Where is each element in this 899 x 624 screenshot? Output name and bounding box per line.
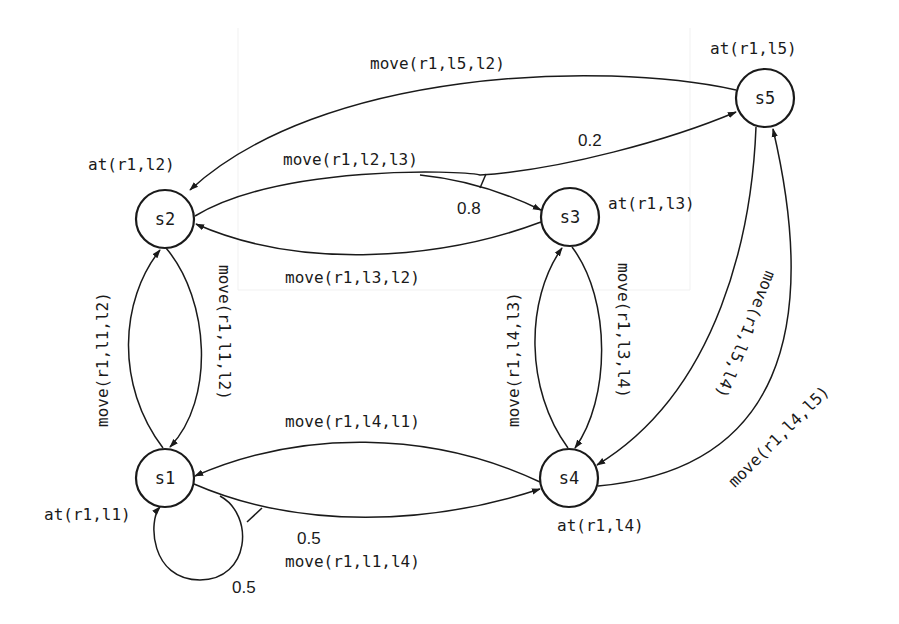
node-label: s3 — [560, 207, 580, 227]
action-label-move-l1-l2-up: move(r1,l1,l2) — [93, 292, 112, 427]
node-label: s5 — [755, 88, 775, 108]
action-label-move-l4-l3: move(r1,l4,l3) — [504, 292, 523, 427]
probability-0-5-loop: 0.5 — [232, 578, 256, 597]
action-label-move-l3-l2: move(r1,l3,l2) — [285, 268, 420, 287]
action-label-move-l1-l4: move(r1,l1,l4) — [285, 552, 420, 571]
action-label-move-l2-l3: move(r1,l2,l3) — [283, 150, 418, 169]
node-s1: s1 — [136, 449, 194, 507]
probability-0-5-edge: 0.5 — [297, 529, 321, 548]
action-label-move-l4-l1: move(r1,l4,l1) — [285, 412, 420, 431]
branch-tick-s1 — [247, 508, 262, 522]
edge-s3-to-s2 — [196, 222, 541, 255]
action-label-move-l1-l2-down: move(r1,l1,l2) — [215, 265, 234, 400]
edge-s4-to-s3 — [535, 248, 568, 448]
edge-s4-to-s1 — [195, 442, 540, 482]
node-s5: s5 — [736, 69, 794, 127]
action-label-move-l5-l2: move(r1,l5,l2) — [370, 54, 505, 73]
edge-s1-to-s2 — [128, 250, 163, 448]
node-s4: s4 — [540, 449, 598, 507]
state-label-s1: at(r1,l1) — [44, 505, 131, 524]
node-s2: s2 — [136, 190, 194, 248]
action-label-move-l3-l4: move(r1,l3,l4) — [614, 263, 633, 398]
state-label-s2: at(r1,l2) — [88, 155, 175, 174]
state-transition-diagram: s2 s3 s5 s1 s4 at(r1,l2) at(r1,l3) at(r1… — [0, 0, 899, 624]
probability-0-8: 0.8 — [457, 199, 481, 218]
edge-s1-self-loop — [154, 496, 243, 580]
edge-s3-to-s4 — [572, 247, 602, 448]
state-label-s5: at(r1,l5) — [710, 39, 797, 58]
node-s3: s3 — [541, 188, 599, 246]
node-label: s1 — [155, 468, 175, 488]
action-label-move-l4-l5: move(r1,l4,l5) — [724, 382, 833, 491]
node-label: s4 — [559, 468, 579, 488]
edge-s1-to-s4 — [194, 484, 540, 517]
probability-0-2: 0.2 — [578, 131, 602, 150]
state-label-s4: at(r1,l4) — [557, 516, 644, 535]
edge-s2-to-s1 — [166, 248, 201, 447]
state-label-s3: at(r1,l3) — [608, 194, 695, 213]
node-label: s2 — [155, 209, 175, 229]
branch-tick-s2 — [480, 174, 486, 188]
